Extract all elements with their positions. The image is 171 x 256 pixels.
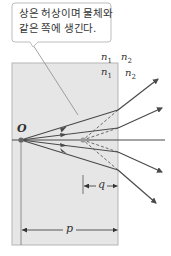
n1-inner-subscript: 1: [107, 72, 111, 80]
callout-line-1: 상은 허상이며 물체와: [19, 6, 111, 21]
n2-inner-subscript: 2: [131, 73, 135, 81]
n1-outer-subscript: 1: [107, 57, 111, 65]
virtual-image-point: [80, 137, 85, 142]
n2-inner-label: n2: [125, 68, 136, 82]
callout-text: 상은 허상이며 물체와 같은 쪽에 생긴다.: [19, 6, 111, 36]
q-label: q: [98, 180, 105, 190]
p-label: p: [66, 224, 73, 234]
n2-outer-subscript: 2: [127, 57, 131, 65]
ray-4-refracted: [118, 170, 156, 203]
ray-3-refracted: [118, 152, 162, 172]
object-point: [18, 137, 23, 142]
n2-outer-label: n2: [121, 52, 132, 66]
object-label: O: [17, 124, 27, 134]
n1-outer-label: n1: [101, 52, 112, 66]
callout-line-2: 같은 쪽에 생긴다.: [19, 21, 111, 36]
n1-inner-label: n1: [101, 67, 112, 81]
ray-1-refracted: [118, 79, 158, 110]
ray-2-refracted: [118, 108, 162, 128]
